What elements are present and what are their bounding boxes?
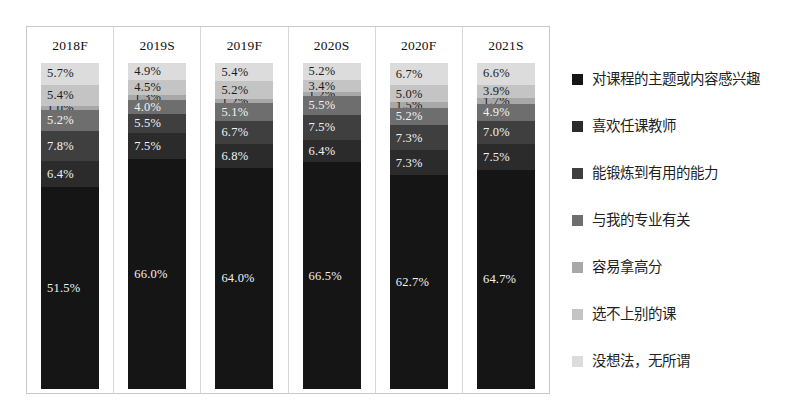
legend-item[interactable]: 喜欢任课教师 xyxy=(572,103,790,150)
segment-value-label: 5.0% xyxy=(390,88,423,101)
legend-swatch-icon xyxy=(572,168,583,179)
segment-value-label: 66.0% xyxy=(128,268,167,281)
column-label: 2020F xyxy=(401,27,437,63)
legend-item[interactable]: 选不上别的课 xyxy=(572,291,790,338)
stacked-bar: 5.4%5.2%1.2%5.1%6.7%6.8%64.0% xyxy=(215,63,273,390)
bar-segment[interactable]: 5.2% xyxy=(215,81,273,99)
legend-swatch-icon xyxy=(572,356,583,367)
bar-segment[interactable]: 5.2% xyxy=(390,108,448,126)
bar-segment[interactable]: 3.9% xyxy=(477,85,535,98)
bar-segment[interactable]: 7.5% xyxy=(477,144,535,169)
bar-segment[interactable]: 7.3% xyxy=(390,125,448,150)
bar-segment[interactable]: 5.2% xyxy=(41,110,99,130)
segment-value-label: 3.9% xyxy=(477,85,510,98)
legend-label: 容易拿高分 xyxy=(592,260,662,276)
segment-value-label: 5.7% xyxy=(41,67,74,80)
bar-segment[interactable]: 66.0% xyxy=(128,159,186,389)
bar-segment[interactable]: 51.5% xyxy=(41,187,99,390)
legend-label: 没想法，无所谓 xyxy=(592,354,690,370)
chart-legend: 对课程的主题或内容感兴趣喜欢任课教师能锻炼到有用的能力与我的专业有关容易拿高分选… xyxy=(572,56,790,385)
segment-value-label: 5.5% xyxy=(303,99,336,112)
bar-segment[interactable]: 6.8% xyxy=(215,144,273,168)
segment-value-label: 3.4% xyxy=(303,80,336,92)
legend-item[interactable]: 没想法，无所谓 xyxy=(572,338,790,385)
bar-segment[interactable]: 64.0% xyxy=(215,168,273,390)
bar-segment[interactable]: 6.7% xyxy=(390,63,448,86)
stacked-bar: 6.6%3.9%1.7%4.9%7.0%7.5%64.7% xyxy=(477,63,535,390)
segment-value-label: 64.0% xyxy=(215,272,254,285)
stacked-bar: 4.9%4.5%1.3%4.0%5.5%7.5%66.0% xyxy=(128,63,186,390)
segment-value-label: 6.7% xyxy=(390,68,423,81)
bar-segment[interactable]: 7.8% xyxy=(41,131,99,162)
legend-label: 与我的专业有关 xyxy=(592,213,690,229)
bar-segment[interactable]: 7.0% xyxy=(477,121,535,145)
segment-value-label: 6.4% xyxy=(303,145,336,158)
bar-segment[interactable]: 7.3% xyxy=(390,150,448,175)
bar-column: 2020F6.7%5.0%1.5%5.2%7.3%7.3%62.7% xyxy=(376,27,463,393)
legend-item[interactable]: 容易拿高分 xyxy=(572,244,790,291)
legend-label: 喜欢任课教师 xyxy=(592,119,676,135)
bar-segment[interactable]: 6.6% xyxy=(477,63,535,85)
stacked-bar: 5.2%3.4%1.2%5.5%7.5%6.4%66.5% xyxy=(303,63,361,390)
segment-value-label: 6.4% xyxy=(41,168,74,181)
bar-column: 2021S6.6%3.9%1.7%4.9%7.0%7.5%64.7% xyxy=(463,27,549,393)
segment-value-label: 62.7% xyxy=(390,276,429,289)
segment-value-label: 7.0% xyxy=(477,126,510,139)
stacked-bar: 5.7%5.4%1.0%5.2%7.8%6.4%51.5% xyxy=(41,63,99,390)
legend-item[interactable]: 与我的专业有关 xyxy=(572,197,790,244)
segment-value-label: 7.8% xyxy=(41,140,74,153)
legend-swatch-icon xyxy=(572,309,583,320)
bar-segment[interactable]: 62.7% xyxy=(390,175,448,389)
segment-value-label: 4.9% xyxy=(128,65,161,78)
legend-item[interactable]: 能锻炼到有用的能力 xyxy=(572,150,790,197)
bar-segment[interactable]: 66.5% xyxy=(303,162,361,389)
legend-swatch-icon xyxy=(572,121,583,132)
segment-value-label: 6.8% xyxy=(215,150,248,163)
segment-value-label: 4.9% xyxy=(477,106,510,119)
legend-label: 能锻炼到有用的能力 xyxy=(592,166,718,182)
bar-segment[interactable]: 4.5% xyxy=(128,80,186,96)
bar-segment[interactable]: 6.7% xyxy=(215,121,273,144)
segment-value-label: 5.2% xyxy=(41,114,74,127)
bar-segment[interactable]: 6.4% xyxy=(41,161,99,186)
bar-segment[interactable]: 3.4% xyxy=(303,80,361,92)
segment-value-label: 7.5% xyxy=(303,121,336,134)
segment-value-label: 5.5% xyxy=(128,117,161,130)
bar-segment[interactable]: 5.5% xyxy=(303,96,361,115)
segment-value-label: 66.5% xyxy=(303,270,342,283)
bar-segment[interactable]: 7.5% xyxy=(303,115,361,141)
bar-segment[interactable]: 5.0% xyxy=(390,85,448,102)
bar-segment[interactable]: 4.0% xyxy=(128,100,186,114)
column-label: 2018F xyxy=(52,27,88,63)
legend-item[interactable]: 对课程的主题或内容感兴趣 xyxy=(572,56,790,103)
legend-swatch-icon xyxy=(572,215,583,226)
segment-value-label: 4.5% xyxy=(128,81,161,94)
legend-label: 对课程的主题或内容感兴趣 xyxy=(592,72,760,88)
segment-value-label: 7.3% xyxy=(390,157,423,170)
bar-segment[interactable]: 7.5% xyxy=(128,133,186,159)
bar-segment[interactable]: 4.9% xyxy=(128,63,186,80)
legend-label: 选不上别的课 xyxy=(592,307,676,323)
legend-swatch-icon xyxy=(572,74,583,85)
segment-value-label: 5.2% xyxy=(215,84,248,97)
column-label: 2019F xyxy=(227,27,263,63)
bar-segment[interactable]: 5.4% xyxy=(41,85,99,106)
segment-value-label: 5.4% xyxy=(215,66,248,79)
bar-segment[interactable]: 5.2% xyxy=(303,63,361,81)
bar-segment[interactable]: 64.7% xyxy=(477,170,535,390)
bar-segment[interactable]: 5.5% xyxy=(128,114,186,133)
bar-segment[interactable]: 5.1% xyxy=(215,103,273,121)
bar-segment[interactable]: 5.4% xyxy=(215,63,273,82)
bar-columns: 2018F5.7%5.4%1.0%5.2%7.8%6.4%51.5%2019S4… xyxy=(27,27,549,393)
bar-segment[interactable]: 6.4% xyxy=(303,140,361,162)
column-label: 2019S xyxy=(140,27,176,63)
segment-value-label: 64.7% xyxy=(477,273,516,286)
bar-segment[interactable]: 4.9% xyxy=(477,104,535,121)
segment-value-label: 5.1% xyxy=(215,106,248,119)
segment-value-label: 4.0% xyxy=(128,101,161,114)
column-label: 2021S xyxy=(488,27,524,63)
stacked-bar-chart: 2018F5.7%5.4%1.0%5.2%7.8%6.4%51.5%2019S4… xyxy=(0,0,797,412)
bar-segment[interactable]: 5.7% xyxy=(41,63,99,85)
bar-column: 2018F5.7%5.4%1.0%5.2%7.8%6.4%51.5% xyxy=(27,27,114,393)
segment-value-label: 5.2% xyxy=(303,65,336,78)
